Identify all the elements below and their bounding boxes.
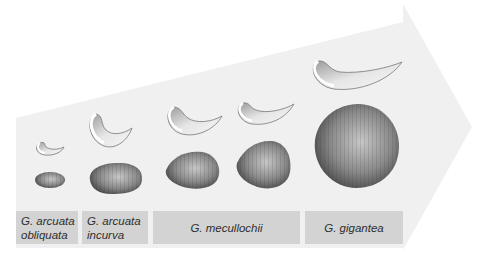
species-label-1: G. arcuata obliquata [16,211,78,244]
species-label-1-line2: obliquata [21,228,68,242]
species-label-4: G. gigantea [305,211,403,244]
species-label-2-line1: G. arcuata [87,214,141,228]
species-label-3: G. mecullochii [153,211,300,244]
species-label-3-line1: G. mecullochii [190,221,262,235]
species-label-2-line2: incurva [87,228,124,242]
species-label-4-line1: G. gigantea [324,221,383,235]
species-label-2: G. arcuata incurva [82,211,148,244]
species-label-1-line1: G. arcuata [21,214,75,228]
